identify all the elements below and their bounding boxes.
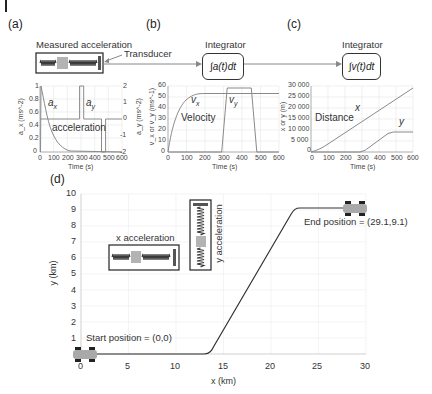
chart-a-left-tick: 1 (35, 82, 39, 89)
chart-c-ylabel: x or y (m) (279, 97, 286, 137)
chart-a-ax-label: ax (48, 97, 57, 110)
chart-a-x-tick: 100 (48, 154, 60, 161)
accelerometer-icon (36, 53, 103, 73)
ay-subscript: y (92, 103, 96, 110)
chart-a-left-ylabel: a_x (ms^-2) (17, 97, 24, 137)
chart-b-y-tick: 40 (158, 103, 166, 110)
chart-d-xlabel: x (km) (211, 376, 236, 386)
end-position-label: End position = (29.1,9.1) (304, 216, 408, 227)
chart-c-y-tick: 0 (307, 146, 311, 153)
chart-d-x-tick: 25 (312, 361, 322, 371)
chart-b-x-tick: 600 (273, 154, 285, 161)
chart-d-y-tick: 6 (71, 252, 76, 262)
chart-a-x-tick: 600 (116, 154, 128, 161)
chart-b-ylabel: v_x or v_y (ms^-1) (148, 87, 155, 147)
chart-c-y-tick: 10 000 (288, 125, 309, 132)
vx-subscript: x (196, 100, 200, 107)
chart-a-left-tick: 0.2 (29, 134, 39, 141)
chart-d-x-tick: 10 (170, 361, 180, 371)
chart-b-vy-label: vy (229, 94, 238, 107)
chart-a-x-tick: 400 (89, 154, 101, 161)
chart-c-x-tick: 100 (323, 154, 335, 161)
chart-a-right-ylabel: a_y (ms^-2) (135, 97, 142, 137)
chart-d-y-tick: 10 (66, 188, 76, 198)
start-position-label: Start position = (0,0) (86, 332, 172, 343)
chart-d-y-tick: 7 (71, 236, 76, 246)
chart-c-annotation: Distance (315, 112, 354, 123)
chart-c-y-tick: 15 000 (288, 114, 309, 121)
chart-b-x-tick: 0 (166, 154, 170, 161)
chart-b-y-tick: 50 (158, 92, 166, 99)
chart-a-left-tick: 0.8 (29, 95, 39, 102)
chart-c-y-tick: 5 000 (291, 136, 309, 143)
ax-subscript: x (54, 103, 58, 110)
chart-d-y-tick: 8 (71, 220, 76, 230)
chart-b-x-tick: 300 (218, 154, 230, 161)
chart-d-y-tick: 1 (71, 333, 76, 343)
chart-a-right-tick: 1 (123, 98, 127, 105)
chart-a-acceleration (40, 86, 122, 152)
chart-c-xlabel: Time (s) (350, 163, 375, 170)
chart-c-x-tick: 300 (357, 154, 369, 161)
chart-a-left-tick: 0.6 (29, 108, 39, 115)
chart-a-right-tick: -1 (120, 131, 126, 138)
chart-a-left-tick: 0.4 (29, 121, 39, 128)
chart-c-x-tick: 0 (310, 154, 314, 161)
end-car-icon (343, 201, 367, 216)
chart-a-right-tick: 0 (123, 114, 127, 121)
vy-subscript: y (234, 100, 238, 107)
chart-c-y-tick: 30 000 (288, 81, 309, 88)
chart-b-y-tick: 60 (158, 81, 166, 88)
chart-d-y-tick: 3 (71, 301, 76, 311)
chart-d-x-tick: 15 (218, 361, 228, 371)
chart-d-y-tick: 2 (71, 317, 76, 327)
chart-a-annotation: acceleration (52, 122, 106, 133)
chart-c-y-tick: 25 000 (288, 92, 309, 99)
x-accelerometer-icon (109, 245, 179, 270)
chart-b-annotation: Velocity (181, 112, 215, 123)
chart-a-ay-label: ay (86, 97, 95, 110)
chart-b-y-tick: 30 (158, 114, 166, 121)
chart-d-y-tick: 4 (71, 285, 76, 295)
chart-d-y-tick: 5 (71, 268, 76, 278)
chart-a-left-tick: 0 (33, 147, 37, 154)
chart-c-x-tick: 500 (391, 154, 403, 161)
chart-b-vx-label: vx (191, 94, 200, 107)
chart-d-ylabel: y (km) (48, 253, 58, 293)
y-accelerometer-icon (190, 200, 211, 270)
chart-c-x-tick: 600 (407, 154, 419, 161)
x-acceleration-label: x acceleration (116, 232, 175, 243)
diagram-graphics (0, 0, 432, 394)
chart-b-y-tick: 0 (161, 147, 165, 154)
chart-b-x-tick: 100 (181, 154, 193, 161)
chart-d-x-tick: 30 (360, 361, 370, 371)
start-car-icon (73, 347, 97, 362)
chart-d-y-tick: 9 (71, 204, 76, 214)
chart-d-x-tick: 20 (265, 361, 275, 371)
chart-a-x-tick: 200 (62, 154, 74, 161)
chart-c-x-tick: 200 (340, 154, 352, 161)
chart-d-x-tick: 0 (78, 361, 83, 371)
chart-a-right-tick: 2 (123, 82, 127, 89)
chart-a-x-tick: 300 (76, 154, 88, 161)
chart-c-y-series-label: y (399, 116, 404, 127)
chart-c-x-tick: 400 (374, 154, 386, 161)
chart-c-x-series-label: x (355, 102, 360, 113)
chart-b-y-tick: 20 (158, 125, 166, 132)
chart-a-xlabel: Time (s) (68, 163, 93, 170)
chart-b-y-tick: 10 (158, 136, 166, 143)
chart-d-x-tick: 5 (125, 361, 130, 371)
chart-b-xlabel: Time (s) (212, 163, 237, 170)
chart-c-y-tick: 20 000 (288, 103, 309, 110)
chart-b-x-tick: 200 (199, 154, 211, 161)
chart-b-x-tick: 400 (236, 154, 248, 161)
chart-a-x-tick: 0 (38, 154, 42, 161)
chart-b-x-tick: 500 (255, 154, 267, 161)
y-acceleration-label: y acceleration (213, 199, 224, 269)
chart-a-x-tick: 500 (103, 154, 115, 161)
